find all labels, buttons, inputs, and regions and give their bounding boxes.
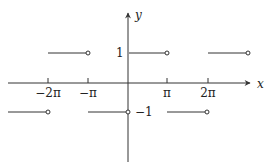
- x-tick-label: π: [163, 86, 171, 100]
- x-tick-label: −2π: [35, 86, 61, 100]
- y-tick-label: 1: [116, 46, 124, 60]
- step-function-figure: x y −2π −π π 2π 1 −1: [0, 0, 274, 165]
- y-axis-label: y: [134, 8, 142, 22]
- segments-upper: [48, 51, 250, 55]
- x-tick-label: 2π: [200, 86, 216, 100]
- x-tick-label: −π: [79, 86, 97, 100]
- y-tick-label: −1: [135, 105, 153, 119]
- segments-lower: [8, 110, 209, 114]
- x-axis-label: x: [257, 77, 264, 91]
